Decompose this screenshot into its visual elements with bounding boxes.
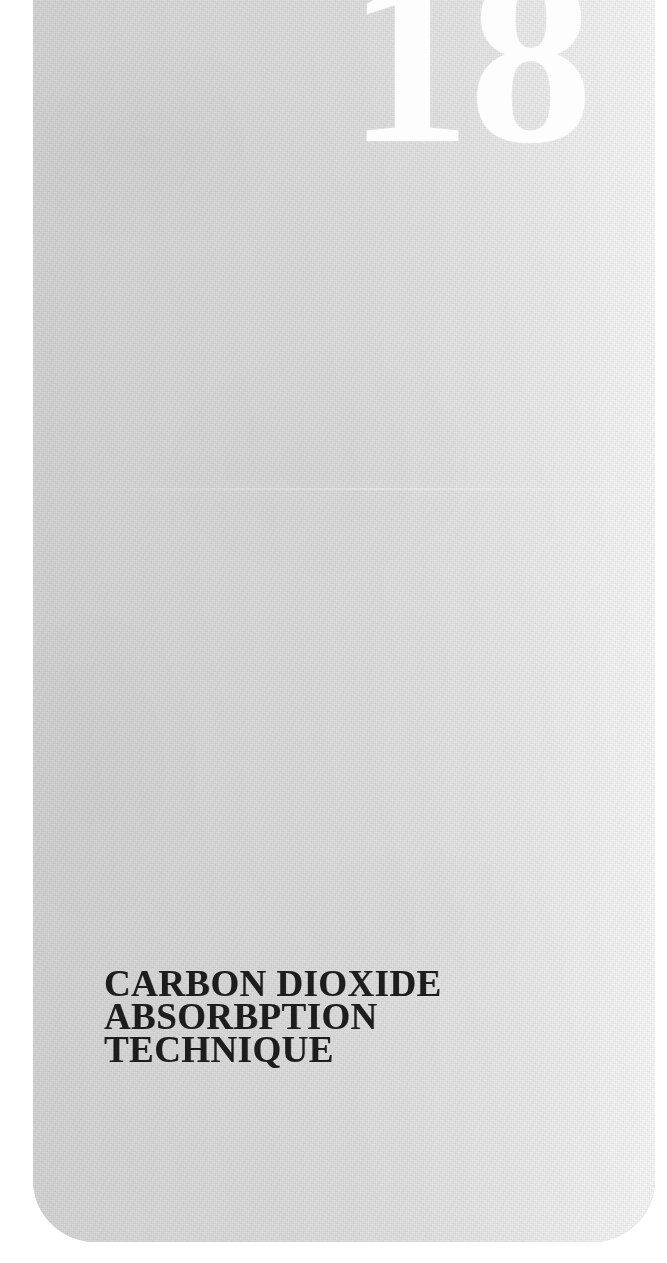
chapter-number: 18: [347, 0, 591, 182]
scan-seam-line: [33, 488, 655, 490]
scanned-page-sheet: 18 CARBON DIOXIDE ABSORBPTION TECHNIQUE: [33, 0, 655, 1242]
chapter-title: CARBON DIOXIDE ABSORBPTION TECHNIQUE: [104, 967, 574, 1066]
chapter-divider-page: 18 CARBON DIOXIDE ABSORBPTION TECHNIQUE: [0, 0, 667, 1263]
chapter-title-line-3: TECHNIQUE: [104, 1033, 574, 1066]
